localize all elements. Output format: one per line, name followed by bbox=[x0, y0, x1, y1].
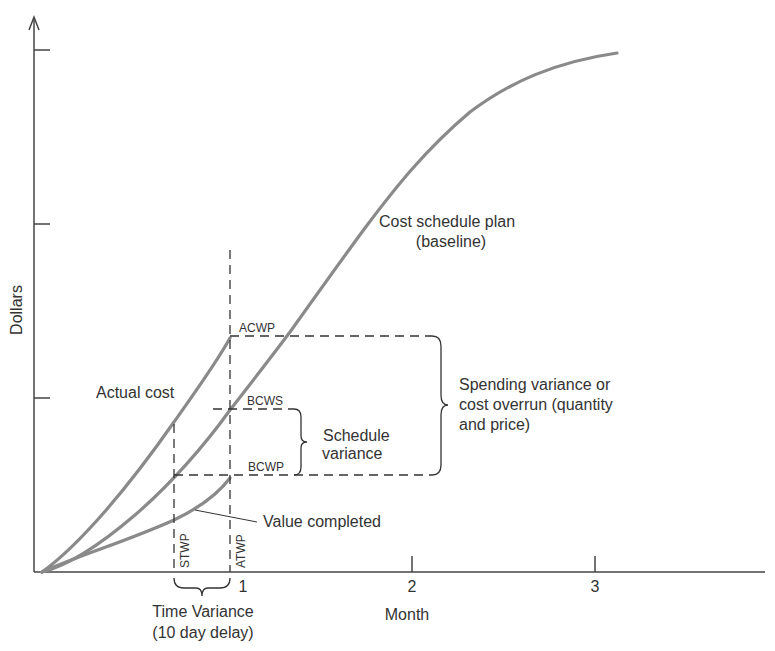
time-variance-brace bbox=[174, 578, 230, 596]
atwp-label: ATWP bbox=[234, 534, 248, 568]
bcws-label: BCWS bbox=[247, 394, 283, 408]
value-completed-curve bbox=[42, 478, 230, 572]
x-axis bbox=[34, 556, 765, 572]
earned-value-chart: Dollars 1 2 3 Month ACWP BCWS BCWP STWP … bbox=[0, 0, 775, 651]
spending-variance-label-line1: Spending variance or bbox=[459, 376, 611, 393]
value-completed-label: Value completed bbox=[263, 513, 381, 530]
y-axis bbox=[29, 17, 50, 572]
baseline-curve bbox=[42, 53, 617, 572]
x-tick-label-2: 2 bbox=[408, 578, 417, 595]
time-variance-label-line2: (10 day delay) bbox=[152, 624, 253, 641]
spending-variance-label-line3: and price) bbox=[459, 416, 530, 433]
value-completed-leader bbox=[195, 510, 257, 522]
baseline-label-line1: Cost schedule plan bbox=[379, 213, 515, 230]
spending-variance-label-line2: cost overrun (quantity bbox=[459, 396, 613, 413]
schedule-variance-label-line2: variance bbox=[322, 445, 383, 462]
actual-cost-label: Actual cost bbox=[96, 384, 175, 401]
schedule-variance-label-line1: Schedule bbox=[323, 427, 390, 444]
stwp-label: STWP bbox=[178, 533, 192, 568]
x-tick-label-1: 1 bbox=[239, 578, 248, 595]
y-axis-label: Dollars bbox=[8, 285, 25, 335]
x-tick-label-3: 3 bbox=[591, 578, 600, 595]
schedule-variance-brace bbox=[294, 409, 307, 475]
spending-variance-brace bbox=[432, 336, 448, 475]
acwp-label: ACWP bbox=[239, 321, 275, 335]
x-axis-label: Month bbox=[385, 606, 429, 623]
bcwp-label: BCWP bbox=[248, 460, 284, 474]
time-variance-label-line1: Time Variance bbox=[152, 603, 253, 620]
baseline-label-line2: (baseline) bbox=[416, 233, 486, 250]
